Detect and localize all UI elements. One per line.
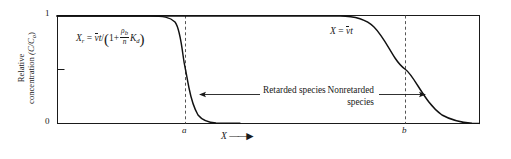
plot-frame xyxy=(58,16,480,124)
callout-arrow-nonretarded xyxy=(379,92,426,97)
curve-nonretarded-species xyxy=(57,16,479,123)
breakthrough-curve-figure: 1 0 Relative concentration (C/Co) X ——▶ … xyxy=(0,0,511,159)
curve-retarded-species xyxy=(57,16,240,123)
callout-arrow-retarded xyxy=(199,92,260,97)
plot-canvas xyxy=(0,0,511,159)
